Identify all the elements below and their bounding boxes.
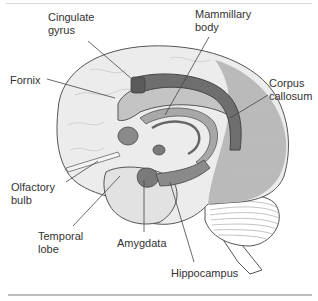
label-amygdata: Amygdata [117, 237, 167, 250]
anterior-nucleus [118, 127, 138, 145]
label-temporal-lobe: Temporal lobe [38, 230, 83, 256]
amygdala [137, 168, 158, 187]
label-mammillary-body: Mammillary body [195, 8, 251, 34]
label-corpus-callosum: Corpus callosum [269, 77, 312, 103]
label-cingulate-gyrus: Cingulate gyrus [48, 11, 94, 37]
corpus-callosum-genu [131, 77, 145, 93]
bottom-divider [8, 294, 312, 296]
label-hippocampus: Hippocampus [171, 267, 238, 280]
mammillary-body [153, 145, 165, 155]
label-fornix: Fornix [10, 74, 41, 87]
label-olfactory-bulb: Olfactory bulb [11, 181, 55, 207]
